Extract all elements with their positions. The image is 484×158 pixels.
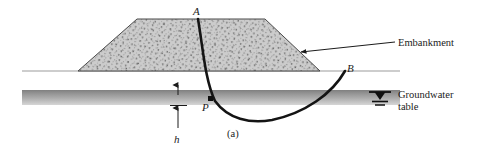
label-point-b: B — [347, 62, 354, 74]
label-point-a: A — [193, 5, 200, 17]
groundwater-label-line1: Groundwater — [398, 89, 453, 101]
label-embankment: Embankment — [398, 37, 454, 49]
label-depth-h: h — [174, 133, 180, 145]
figure-canvas — [0, 0, 484, 158]
embankment-leader-line — [301, 42, 395, 52]
label-groundwater-table: Groundwater table — [398, 89, 453, 113]
embankment-slip-circle-figure: A B P h Embankment Groundwater table (a) — [0, 0, 484, 158]
figure-caption: (a) — [227, 128, 239, 140]
label-point-p: P — [202, 101, 209, 113]
groundwater-label-line2: table — [398, 101, 453, 113]
